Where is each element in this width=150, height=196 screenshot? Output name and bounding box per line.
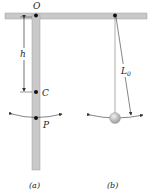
center-label-c: C xyxy=(42,88,49,98)
ceiling-bar xyxy=(5,13,147,19)
point-label-p: P xyxy=(42,120,50,130)
pendulum-bob xyxy=(110,113,121,124)
dimension-label-h: h xyxy=(20,49,26,59)
caption-b: (b) xyxy=(107,181,118,190)
panel-a: O h C P (a) xyxy=(12,1,62,190)
pivot-point-o xyxy=(34,14,38,18)
pendulum-diagram: O h C P (a) L0 (b) xyxy=(0,0,150,196)
pivot-label-o: O xyxy=(33,1,41,11)
panel-b: L0 (b) xyxy=(90,14,143,191)
pivot-point-b xyxy=(113,14,117,18)
center-of-mass-c xyxy=(34,90,38,94)
length-label-subscript: 0 xyxy=(127,70,131,77)
caption-a: (a) xyxy=(29,181,40,190)
length-label-l: L xyxy=(120,66,127,76)
point-p xyxy=(34,116,38,120)
